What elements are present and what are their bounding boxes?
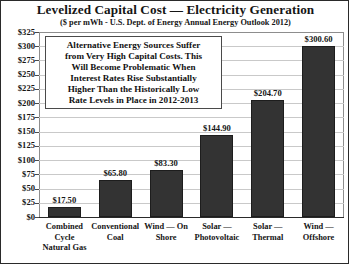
annotation-textbox: Alternative Energy Sources Sufferfrom Ve… [45,36,222,109]
category-label-line: Photovoltaic [190,233,245,244]
bar-3 [200,135,233,217]
y-axis-tick-label: $300 [0,42,35,51]
chart-figure: Levelized Capital Cost — Electricity Gen… [0,0,349,264]
bar-value-label: $65.80 [85,169,145,178]
bar-4 [251,100,284,217]
y-axis-tick-mark [35,32,39,33]
annotation-line: Will Become Problematic When [50,62,217,73]
bar-value-label: $300.60 [289,35,349,44]
x-axis-category-label: ConventionalCoal [88,222,143,243]
category-label-line: Solar — [190,222,245,233]
y-axis-tick-label: $150 [0,127,35,136]
annotation-line: Alternative Energy Sources Suffer [50,40,217,51]
bar-value-label: $17.50 [34,196,94,205]
y-axis-tick-label: $0 [0,213,35,222]
category-label-line: Offshore [291,233,346,244]
y-axis-tick-label: $75 [0,170,35,179]
page-title: Levelized Capital Cost — Electricity Gen… [1,3,349,17]
bar-2 [150,170,183,217]
y-axis-tick-label: $225 [0,84,35,93]
annotation-line: Interest Rates Rise Substantially [50,73,217,84]
y-axis-tick-label: $275 [0,56,35,65]
bar-value-label: $144.90 [187,124,247,133]
chart-subtitle: ($ per mWh - U.S. Dept. of Energy Annual… [1,18,349,28]
annotation-line: from Very High Capital Costs. This [50,51,217,62]
category-label-line: Solar — [240,222,295,233]
y-axis-tick-label: $125 [0,141,35,150]
category-label-line: Natural Gas [37,243,92,254]
x-axis-category-label: CombinedCycleNatural Gas [37,222,92,254]
category-label-line: Combined [37,222,92,233]
x-axis-category-label: Wind —Offshore [291,222,346,243]
gridline [39,146,344,147]
annotation-line: Higher Than the Historically Low [50,84,217,95]
category-label-line: Cycle [37,233,92,244]
category-label-line: Thermal [240,233,295,244]
category-label-line: Wind — On [139,222,194,233]
y-axis-tick-label: $200 [0,99,35,108]
y-axis-tick-label: $250 [0,70,35,79]
annotation-line: Rate Levels in Place in 2012-2013 [50,95,217,106]
category-label-line: Coal [88,233,143,244]
bar-0 [48,207,81,217]
y-axis-tick-label: $25 [0,198,35,207]
y-axis-tick-label: $50 [0,184,35,193]
x-axis-category-label: Wind — OnShore [139,222,194,243]
y-axis-tick-label: $325 [0,28,35,37]
x-axis-line [39,217,344,218]
gridline [39,189,344,190]
y-axis-tick-mark [35,217,39,218]
y-axis-tick-label: $175 [0,113,35,122]
bar-value-label: $204.70 [238,89,298,98]
bar-value-label: $83.30 [136,159,196,168]
y-axis-tick-label: $100 [0,156,35,165]
category-label-line: Wind — [291,222,346,233]
bar-5 [302,46,335,217]
x-axis-category-label: Solar —Photovoltaic [190,222,245,243]
title-block: Levelized Capital Cost — Electricity Gen… [1,3,349,28]
gridline [39,117,344,118]
bar-1 [99,180,132,217]
x-axis-category-label: Solar —Thermal [240,222,295,243]
category-label-line: Shore [139,233,194,244]
category-label-line: Conventional [88,222,143,233]
